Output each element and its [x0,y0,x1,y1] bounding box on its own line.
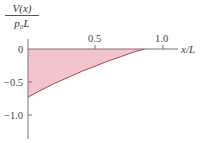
y-tick-label-neg0.5: −0.5 [4,77,23,88]
shear-area [28,49,145,97]
x-tick-label-1.0: 1.0 [155,33,168,44]
x-tick-label-0.5: 0.5 [88,33,101,44]
x-axis-label: x/L [180,43,195,55]
y-tick-label-neg1.0: −1.0 [4,110,23,121]
chart-plot: 0.5 1.0 0 −0.5 −1.0 x/L [0,0,205,143]
y-tick-label-0: 0 [18,44,23,55]
